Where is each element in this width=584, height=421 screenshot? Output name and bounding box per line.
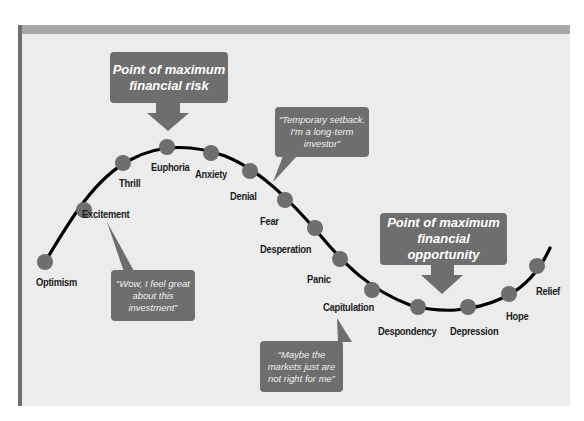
stage-label-thrill: Thrill <box>119 177 140 189</box>
excitement-quote-tail <box>107 222 134 272</box>
stage-label-fear: Fear <box>260 215 279 227</box>
stage-label-capitulation: Capitulation <box>323 301 374 313</box>
quote-line: markets just are <box>268 361 336 373</box>
opportunity-callout: Point of maximum financial opportunity <box>380 213 507 265</box>
stage-dot-capitulation <box>364 282 380 298</box>
stage-label-denial: Denial <box>230 190 257 202</box>
denial-quote-tail <box>273 156 297 182</box>
quote-line: not right for me” <box>268 373 336 385</box>
quote-line: “Maybe the <box>268 349 336 361</box>
stage-dot-desperation <box>307 220 323 236</box>
risk-arrow-icon <box>147 103 189 131</box>
stage-dot-denial <box>242 163 258 179</box>
stage-dot-hope <box>501 286 517 302</box>
stage-label-anxiety: Anxiety <box>195 168 227 180</box>
stage-label-euphoria: Euphoria <box>151 161 189 173</box>
risk-callout-line-1: Point of maximum <box>113 62 226 78</box>
capitulation-quote-bubble: “Maybe the markets just are not right fo… <box>260 341 343 392</box>
risk-callout: Point of maximum financial risk <box>110 52 228 103</box>
quote-line: I'm a long-term <box>279 126 365 138</box>
stage-label-depression: Depression <box>450 325 498 337</box>
quote-line: “Wow, I feel great <box>116 278 190 290</box>
opportunity-arrow-icon <box>421 265 463 294</box>
risk-callout-line-2: financial risk <box>113 78 226 94</box>
quote-line: investor” <box>279 138 365 150</box>
stage-label-desperation: Desperation <box>260 243 311 255</box>
stage-label-hope: Hope <box>506 310 528 322</box>
stage-label-panic: Panic <box>307 273 331 285</box>
stage-label-excitement: Excitement <box>82 208 129 220</box>
opportunity-callout-line-1: Point of maximum <box>380 215 507 231</box>
capitulation-quote-tail <box>337 318 352 342</box>
denial-quote-bubble: “Temporary setback. I'm a long-term inve… <box>275 107 369 157</box>
stage-dot-thrill <box>115 155 131 171</box>
quote-line: investment” <box>116 302 190 314</box>
stage-label-relief: Relief <box>536 285 560 297</box>
stage-dot-despondency <box>410 299 426 315</box>
stage-dot-euphoria <box>159 139 175 155</box>
excitement-quote-bubble: “Wow, I feel great about this investment… <box>111 270 195 321</box>
quote-line: about this <box>116 290 190 302</box>
stage-dot-depression <box>460 299 476 315</box>
stage-label-optimism: Optimism <box>36 276 77 288</box>
stage-label-despondency: Despondency <box>378 325 437 337</box>
stage-dot-optimism <box>37 254 53 270</box>
opportunity-callout-line-2: financial opportunity <box>380 231 507 263</box>
quote-line: “Temporary setback. <box>279 114 365 126</box>
stage-dot-panic <box>332 251 348 267</box>
stage-dot-fear <box>277 192 293 208</box>
stage-dot-relief <box>529 258 545 274</box>
stage-dot-anxiety <box>203 145 219 161</box>
